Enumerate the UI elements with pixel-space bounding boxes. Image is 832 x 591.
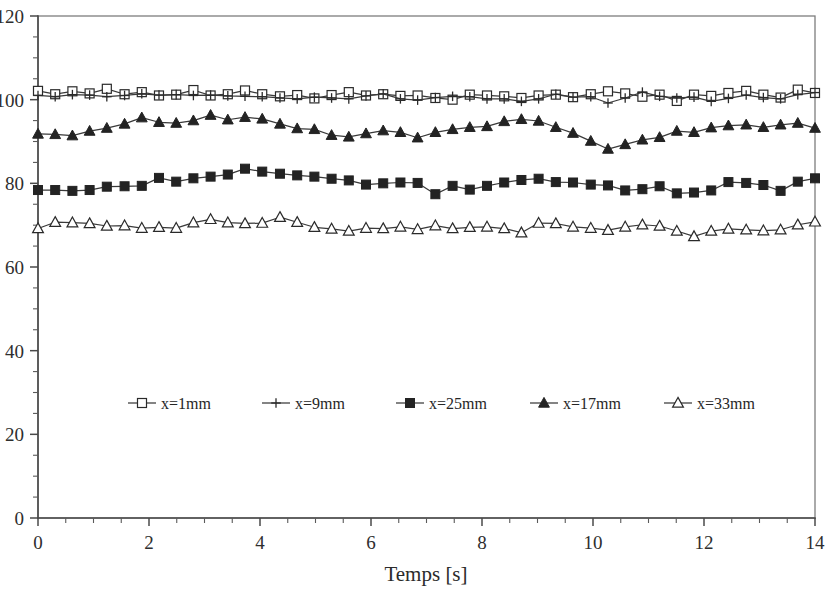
legend-item-x-9mm[interactable]: x=9mm bbox=[262, 395, 345, 412]
data-point-filled-triangle-marker bbox=[539, 397, 550, 407]
data-point-filled-triangle-marker bbox=[205, 110, 216, 120]
x-axis-tick-labels: 02468101214 bbox=[33, 532, 825, 553]
data-point-open-triangle-marker bbox=[637, 219, 648, 229]
data-point-plus-marker bbox=[271, 398, 281, 408]
legend-label: x=1mm bbox=[161, 395, 211, 412]
x-tick-label: 2 bbox=[144, 532, 154, 553]
data-point-filled-square-marker bbox=[483, 181, 492, 190]
legend-label: x=33mm bbox=[697, 395, 755, 412]
x-tick-label: 4 bbox=[255, 532, 265, 553]
series-x-9mm bbox=[33, 87, 820, 107]
data-point-open-triangle-marker bbox=[810, 216, 821, 226]
data-point-filled-square-marker bbox=[759, 181, 768, 190]
data-point-filled-square-marker bbox=[551, 178, 560, 187]
series-x-33mm bbox=[33, 212, 821, 241]
legend-label: x=17mm bbox=[563, 395, 621, 412]
data-point-filled-square-marker bbox=[172, 177, 181, 186]
data-point-filled-triangle-marker bbox=[136, 112, 147, 122]
chart-legend: x=1mmx=9mmx=25mmx=17mmx=33mm bbox=[128, 395, 755, 412]
series-markers bbox=[33, 212, 821, 241]
data-point-open-triangle-marker bbox=[430, 220, 441, 230]
data-point-filled-square-marker bbox=[776, 186, 785, 195]
data-point-filled-triangle-marker bbox=[33, 128, 44, 138]
chart-screenshot: 020406080100120 02468101214 Temps [s] x=… bbox=[0, 0, 832, 591]
data-point-open-triangle-marker bbox=[205, 214, 216, 224]
data-point-filled-square-marker bbox=[396, 178, 405, 187]
data-point-open-triangle-marker bbox=[275, 212, 286, 222]
data-point-filled-square-marker bbox=[742, 178, 751, 187]
data-point-filled-square-marker bbox=[223, 170, 232, 179]
data-point-filled-square-marker bbox=[68, 186, 77, 195]
legend-label: x=25mm bbox=[429, 395, 487, 412]
data-point-filled-triangle-marker bbox=[741, 119, 752, 129]
data-point-filled-triangle-marker bbox=[550, 122, 561, 132]
data-point-open-triangle-marker bbox=[33, 223, 44, 233]
series-markers bbox=[33, 87, 820, 107]
data-point-open-triangle-marker bbox=[361, 222, 372, 232]
data-point-filled-square-marker bbox=[120, 182, 129, 191]
y-tick-label: 100 bbox=[0, 90, 24, 111]
data-point-filled-square-marker bbox=[448, 181, 457, 190]
data-point-filled-square-marker bbox=[189, 174, 198, 183]
data-point-filled-square-marker bbox=[638, 185, 647, 194]
data-point-filled-triangle-marker bbox=[585, 135, 596, 145]
y-axis-tick-labels: 020406080100120 bbox=[0, 6, 24, 529]
data-point-open-triangle-marker bbox=[50, 217, 61, 227]
data-point-filled-square-marker bbox=[707, 186, 716, 195]
data-point-filled-square-marker bbox=[672, 189, 681, 198]
data-point-filled-square-marker bbox=[793, 177, 802, 186]
data-point-open-square-marker bbox=[603, 87, 612, 96]
data-point-open-triangle-marker bbox=[395, 221, 406, 231]
data-point-filled-square-marker bbox=[275, 169, 284, 178]
data-point-open-triangle-marker bbox=[119, 220, 130, 230]
data-point-filled-square-marker bbox=[137, 181, 146, 190]
data-point-filled-square-marker bbox=[310, 172, 319, 181]
data-point-open-triangle-marker bbox=[723, 223, 734, 233]
data-point-filled-square-marker bbox=[811, 174, 820, 183]
data-point-filled-triangle-marker bbox=[792, 117, 803, 127]
legend-item-x-33mm[interactable]: x=33mm bbox=[664, 395, 755, 412]
data-point-filled-triangle-marker bbox=[516, 114, 527, 124]
series-line bbox=[38, 115, 815, 149]
series-line bbox=[38, 217, 815, 236]
y-tick-label: 20 bbox=[5, 424, 24, 445]
data-point-filled-square-marker bbox=[154, 173, 163, 182]
y-tick-label: 80 bbox=[5, 173, 24, 194]
data-point-filled-square-marker bbox=[500, 178, 509, 187]
x-tick-label: 12 bbox=[695, 532, 714, 553]
x-tick-label: 10 bbox=[584, 532, 603, 553]
x-tick-label: 8 bbox=[477, 532, 487, 553]
data-point-open-triangle-marker bbox=[673, 397, 684, 407]
data-point-filled-square-marker bbox=[603, 181, 612, 190]
data-point-filled-square-marker bbox=[517, 175, 526, 184]
data-point-open-triangle-marker bbox=[533, 217, 544, 227]
data-point-filled-square-marker bbox=[724, 178, 733, 187]
line-chart: 020406080100120 02468101214 Temps [s] x=… bbox=[0, 0, 832, 591]
x-tick-label: 6 bbox=[366, 532, 376, 553]
legend-item-x-17mm[interactable]: x=17mm bbox=[530, 395, 621, 412]
legend-item-x-25mm[interactable]: x=25mm bbox=[396, 395, 487, 412]
data-point-plus-marker bbox=[603, 98, 613, 108]
data-point-filled-square-marker bbox=[362, 180, 371, 189]
data-point-filled-square-marker bbox=[258, 167, 267, 176]
data-point-filled-square-marker bbox=[431, 190, 440, 199]
series-x-17mm bbox=[33, 110, 821, 154]
series-x-25mm bbox=[34, 164, 820, 199]
data-point-filled-square-marker bbox=[621, 186, 630, 195]
data-point-filled-square-marker bbox=[655, 182, 664, 191]
y-tick-label: 60 bbox=[5, 257, 24, 278]
data-point-filled-square-marker bbox=[690, 188, 699, 197]
data-point-filled-square-marker bbox=[206, 172, 215, 181]
x-tick-label: 0 bbox=[33, 532, 43, 553]
data-point-filled-square-marker bbox=[534, 174, 543, 183]
y-tick-label: 0 bbox=[15, 508, 25, 529]
data-point-filled-square-marker bbox=[85, 186, 94, 195]
data-point-filled-square-marker bbox=[241, 164, 250, 173]
data-point-filled-square-marker bbox=[293, 171, 302, 180]
data-point-filled-square-marker bbox=[51, 186, 60, 195]
legend-item-x-1mm[interactable]: x=1mm bbox=[128, 395, 211, 412]
data-point-filled-square-marker bbox=[379, 179, 388, 188]
data-point-filled-square-marker bbox=[413, 178, 422, 187]
series-markers bbox=[33, 110, 821, 154]
data-point-filled-square-marker bbox=[586, 180, 595, 189]
